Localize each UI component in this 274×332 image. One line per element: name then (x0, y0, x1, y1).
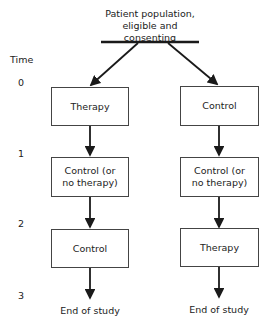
left-arm-period-1-box: Therapy (51, 87, 129, 126)
right-arm-period-1-box: Control (180, 86, 259, 126)
right-arm-period-2-box: Control (or no therapy) (180, 157, 259, 197)
population-title: Patient population, eligible and consent… (95, 8, 205, 44)
arrow-to-left-arm (91, 43, 138, 85)
right-arm-end-label: End of study (174, 304, 264, 315)
left-arm-period-3-box: Control (51, 229, 129, 268)
right-arm-period-3-box: Therapy (180, 228, 259, 267)
arrow-to-right-arm (168, 43, 217, 84)
left-arm-period-2-box: Control (or no therapy) (51, 157, 129, 197)
time-tick-2: 2 (18, 218, 24, 229)
title-line-1: Patient population, (95, 8, 205, 20)
time-tick-0: 0 (18, 77, 24, 88)
time-tick-1: 1 (18, 148, 24, 159)
title-line-2: eligible and consenting (95, 20, 205, 44)
left-arm-end-label: End of study (45, 305, 135, 316)
time-axis-label: Time (10, 54, 33, 65)
time-tick-3: 3 (18, 290, 24, 301)
